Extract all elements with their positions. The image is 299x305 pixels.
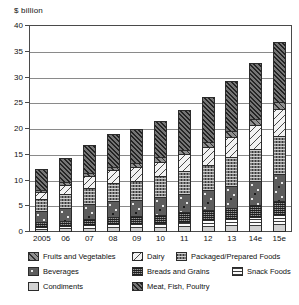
y-axis-tick-label: 5	[5, 201, 23, 210]
legend-item-fruits[interactable]: Fruits and Vegetables	[28, 252, 116, 261]
bar-segment	[178, 171, 191, 194]
bar-segment	[273, 225, 286, 232]
bar-segment	[202, 97, 215, 142]
bar-segment	[130, 216, 143, 224]
stacked-bar[interactable]	[83, 145, 96, 232]
stacked-bar[interactable]	[202, 97, 215, 232]
bar-segment	[249, 217, 262, 226]
x-axis-tick-label: 10	[149, 234, 173, 243]
bar-segment	[59, 194, 72, 208]
x-axis-tick-label: 07	[77, 234, 101, 243]
x-axis-tick-label: 13	[220, 234, 244, 243]
stacked-bar[interactable]	[225, 81, 238, 232]
legend-row: Fruits and VegetablesDairyPackaged/Prepa…	[0, 252, 299, 262]
bar-segment	[35, 192, 48, 199]
bar-segment	[178, 110, 191, 150]
legend-item-beverages[interactable]: Beverages	[28, 267, 79, 276]
legend-row: BeveragesBreads and GrainsSnack Foods	[0, 267, 299, 277]
y-axis-tick-label: 25	[5, 98, 23, 107]
bar-segment	[154, 228, 167, 232]
y-axis-tick-label: 30	[5, 72, 23, 81]
x-axis-tick-label: 08	[101, 234, 125, 243]
legend-item-breads[interactable]: Breads and Grains	[132, 267, 210, 276]
bar-segment	[273, 42, 286, 102]
legend-item-packaged[interactable]: Packaged/Prepared Foods	[176, 252, 280, 261]
bar-segment	[154, 162, 167, 177]
bar-segment	[178, 227, 191, 232]
bar-segment	[35, 211, 48, 222]
bar-segment	[273, 201, 286, 214]
stacked-bar[interactable]	[178, 110, 191, 232]
bar-segment	[35, 169, 48, 190]
legend-swatch-fruits-icon	[28, 252, 39, 261]
legend-swatch-dairy-icon	[132, 252, 143, 261]
bar-segment	[249, 63, 262, 119]
bar-segment	[154, 197, 167, 215]
bar-segment	[83, 204, 96, 218]
bar-segment	[202, 165, 215, 190]
bar-segment	[107, 183, 120, 201]
legend-item-snack[interactable]: Snack Foods	[232, 267, 291, 276]
x-axis-tick-label: 15e	[267, 234, 291, 243]
bar-segment	[107, 134, 120, 166]
legend-label: Breads and Grains	[147, 268, 210, 276]
legend-swatch-condiments-icon	[28, 282, 39, 291]
bar-segment	[273, 102, 286, 110]
y-axis-tick-label: 35	[5, 46, 23, 55]
x-axis-tick-label: 2005	[30, 234, 54, 243]
bar-segment	[249, 226, 262, 232]
bar-segment	[249, 181, 262, 205]
bar-segment	[225, 219, 238, 227]
bar-slot	[172, 26, 196, 232]
bar-segment	[154, 121, 167, 158]
stacked-bar[interactable]	[249, 63, 262, 232]
bar-segment	[273, 136, 286, 174]
chart-legend: Fruits and VegetablesDairyPackaged/Prepa…	[0, 250, 299, 292]
bar-segment	[273, 174, 286, 201]
legend-item-dairy[interactable]: Dairy	[132, 252, 165, 261]
bar-segment	[202, 220, 215, 227]
bar-segment	[273, 109, 286, 136]
y-axis-tick-label: 10	[5, 175, 23, 184]
bar-segment	[83, 219, 96, 226]
bar-segment	[249, 205, 262, 217]
bar-segment	[130, 181, 143, 200]
stacked-bar[interactable]	[130, 129, 143, 232]
stacked-bar-chart: $ billion 0510152025303540 2005060708091…	[0, 0, 299, 305]
bar-segment	[249, 149, 262, 181]
legend-swatch-meat-icon	[132, 282, 143, 291]
stacked-bar[interactable]	[35, 169, 48, 232]
bar-segment	[225, 81, 238, 131]
legend-label: Beverages	[43, 268, 79, 276]
bar-slot	[244, 26, 268, 232]
x-axis-tick-label: 06	[54, 234, 78, 243]
legend-item-meat[interactable]: Meat, Fish, Poultry	[132, 282, 210, 291]
bar-segment	[59, 158, 72, 182]
legend-label: Condiments	[43, 283, 83, 291]
bar-slot	[149, 26, 173, 232]
x-axis-tick-label: 11	[172, 234, 196, 243]
stacked-bar[interactable]	[107, 134, 120, 232]
stacked-bar[interactable]	[154, 121, 167, 232]
stacked-bar[interactable]	[273, 42, 286, 232]
stacked-bar[interactable]	[59, 158, 72, 232]
bar-segment	[249, 119, 262, 126]
legend-label: Fruits and Vegetables	[43, 253, 116, 261]
legend-label: Meat, Fish, Poultry	[147, 283, 210, 291]
bar-segment	[35, 230, 48, 232]
bar-segment	[59, 229, 72, 232]
bar-slot	[220, 26, 244, 232]
bar-segment	[83, 145, 96, 174]
bar-slot	[267, 26, 291, 232]
y-axis: 0510152025303540	[0, 25, 29, 232]
bar-segment	[178, 194, 191, 213]
x-axis-tick-label: 09	[125, 234, 149, 243]
y-axis-tick-label: 20	[5, 124, 23, 133]
legend-label: Packaged/Prepared Foods	[191, 253, 280, 261]
bar-segment	[83, 176, 96, 187]
bar-segment	[130, 167, 143, 181]
legend-item-condiments[interactable]: Condiments	[28, 282, 83, 291]
legend-swatch-snack-icon	[232, 267, 243, 276]
bar-segment	[178, 154, 191, 171]
bar-segment	[202, 227, 215, 232]
